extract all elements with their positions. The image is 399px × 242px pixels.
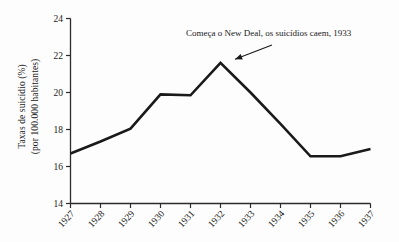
x-axis-tick-label: 1933 (236, 208, 256, 229)
y-axis-tick-label: 22 (54, 51, 64, 61)
data-series-line (71, 63, 371, 156)
x-axis-tick-label: 1937 (356, 208, 376, 229)
annotation-group: Começa o New Deal, os suicídios caem, 19… (186, 28, 352, 59)
y-axis-tick-group: 141618202224 (54, 14, 71, 209)
y-axis-tick-label: 18 (54, 125, 64, 135)
x-axis-tick-label: 1935 (296, 208, 316, 229)
x-axis-tick-label: 1932 (206, 208, 226, 229)
y-axis-tick-label: 14 (54, 199, 64, 209)
x-axis-tick-label: 1934 (266, 208, 286, 229)
annotation-text: Começa o New Deal, os suicídios caem, 19… (186, 28, 352, 38)
y-axis-tick-label: 16 (54, 162, 64, 172)
x-axis-tick-label: 1927 (56, 208, 76, 229)
x-axis-tick-label: 1936 (326, 208, 346, 229)
suicide-rate-line-chart: Taxas de suicídio (%) (por 100.000 habit… (0, 0, 399, 242)
annotation-arrow-head (235, 54, 243, 59)
y-axis-tick-label: 24 (54, 14, 64, 24)
x-axis-tick-label: 1929 (116, 208, 136, 229)
x-axis-tick-group: 1927192819291930193119321933193419351936… (56, 204, 376, 230)
x-axis-tick-label: 1930 (146, 208, 166, 229)
plot-area: 141618202224 192719281929193019311932193… (0, 0, 399, 242)
x-axis-tick-label: 1928 (86, 208, 106, 229)
x-axis-tick-label: 1931 (176, 208, 196, 229)
y-axis-tick-label: 20 (54, 88, 64, 98)
